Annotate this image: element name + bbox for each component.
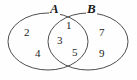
venn-diagram-figure: A B 2 4 1 3 5 7 9 [0,0,137,80]
set-label-b: B [86,2,97,15]
element-left-only-2: 4 [35,48,41,59]
element-intersection-2: 3 [57,35,63,46]
element-intersection-1: 1 [66,20,72,31]
venn-circles-svg [0,0,137,80]
element-right-only-1: 7 [99,27,105,38]
element-right-only-2: 9 [99,48,105,59]
element-left-only-1: 2 [24,27,30,38]
element-intersection-3: 5 [72,47,78,58]
set-label-a: A [49,2,60,15]
